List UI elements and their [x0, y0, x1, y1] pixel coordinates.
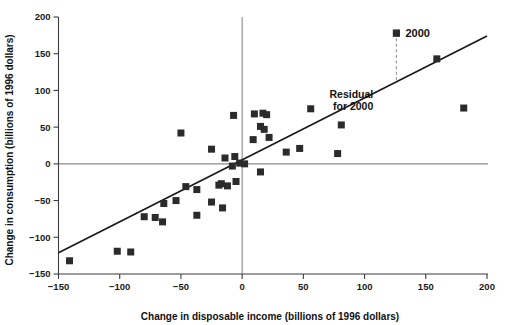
x-tick-label: −150 — [48, 281, 69, 292]
data-point — [230, 112, 237, 119]
y-tick-label: 100 — [35, 85, 51, 96]
y-axis-ticks: −150−100−50050100150200 — [29, 11, 58, 279]
data-point — [334, 150, 341, 157]
data-point — [296, 145, 303, 152]
data-point — [193, 212, 200, 219]
x-tick-label: −100 — [109, 281, 130, 292]
y-tick-label: −150 — [29, 268, 50, 279]
data-point — [257, 168, 264, 175]
legend-label-2000: 2000 — [405, 27, 429, 39]
data-point — [208, 146, 215, 153]
y-axis-title: Change in consumption (billions of 1996 … — [4, 34, 15, 265]
y-tick-label: 50 — [40, 122, 51, 133]
y-tick-label: 0 — [45, 158, 50, 169]
data-point — [114, 248, 121, 255]
scatter-chart: −150−100−50050100150200 −150−100−5005010… — [0, 0, 509, 325]
data-point — [141, 213, 148, 220]
x-tick-label: 0 — [239, 281, 244, 292]
data-point — [66, 257, 73, 264]
residual-annotation-line2: for 2000 — [333, 100, 373, 112]
data-point — [160, 200, 167, 207]
data-point — [193, 186, 200, 193]
data-point — [338, 121, 345, 128]
y-tick-label: 150 — [35, 48, 51, 59]
data-point — [460, 105, 467, 112]
x-axis-title: Change in disposable income (billions of… — [141, 311, 399, 322]
x-tick-label: 50 — [298, 281, 309, 292]
data-point — [229, 163, 236, 170]
x-axis-ticks: −150−100−50050100150200 — [48, 274, 495, 292]
data-point — [433, 55, 440, 62]
data-point — [159, 218, 166, 225]
y-tick-label: −50 — [34, 195, 50, 206]
data-point — [224, 182, 231, 189]
y-tick-label: 200 — [35, 11, 51, 22]
data-point — [250, 136, 257, 143]
data-point — [173, 197, 180, 204]
data-point — [219, 204, 226, 211]
plot-area: −150−100−50050100150200 −150−100−5005010… — [0, 0, 509, 325]
data-point — [307, 105, 314, 112]
data-point — [231, 153, 238, 160]
x-tick-label: 100 — [357, 281, 373, 292]
data-point — [152, 214, 159, 221]
data-point — [263, 111, 270, 118]
data-point — [233, 178, 240, 185]
x-tick-label: 150 — [418, 281, 434, 292]
x-tick-label: 200 — [479, 281, 495, 292]
residual-annotation-line1: Residual — [329, 88, 373, 100]
regression-line — [59, 36, 488, 253]
x-tick-label: −50 — [173, 281, 189, 292]
y-tick-label: −100 — [29, 232, 50, 243]
legend-marker-2000 — [393, 30, 400, 37]
data-point — [266, 134, 273, 141]
data-point — [218, 180, 225, 187]
data-point — [177, 130, 184, 137]
data-point — [283, 149, 290, 156]
data-point — [182, 183, 189, 190]
data-point — [241, 160, 248, 167]
data-point — [261, 126, 268, 133]
data-point — [222, 154, 229, 161]
data-point — [208, 199, 215, 206]
data-point — [251, 110, 258, 117]
data-point — [127, 248, 134, 255]
